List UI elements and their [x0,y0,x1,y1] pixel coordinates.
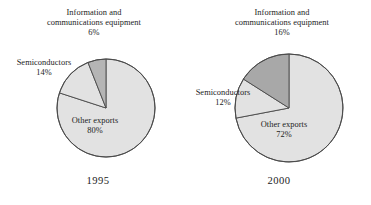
label-other-exports-name-1995: Other exports [72,116,118,125]
label-semiconductors-pct-1995: 14% [2,68,86,78]
label-other-exports-pct-1995: 80% [52,126,138,136]
pie-panel-2000: Information and communications equipment… [185,0,371,205]
label-ict-pct-1995: 6% [24,28,164,38]
label-ict-1995: Information and communications equipment… [24,8,164,39]
label-other-exports-name-2000: Other exports [261,120,307,129]
label-other-exports-pct-2000: 72% [241,130,327,140]
label-other-exports-2000: Other exports 72% [241,120,327,140]
label-ict-name-line2-1995: communications equipment [47,18,141,27]
label-ict-name-line1-1995: Information and [67,8,122,17]
label-semiconductors-name-2000: Semiconductors [196,88,251,97]
label-ict-name-line1-2000: Information and [255,8,310,17]
label-other-exports-1995: Other exports 80% [52,116,138,136]
label-semiconductors-name-1995: Semiconductors [17,58,72,67]
label-ict-name-line2-2000: communications equipment [235,18,329,27]
year-label-1995: 1995 [58,176,138,186]
label-semiconductors-1995: Semiconductors 14% [2,58,86,78]
year-label-2000: 2000 [239,176,319,186]
two-pie-chart-figure: Information and communications equipment… [0,0,371,205]
label-ict-2000: Information and communications equipment… [207,8,357,39]
label-semiconductors-2000: Semiconductors 12% [181,88,265,108]
label-semiconductors-pct-2000: 12% [181,98,265,108]
label-ict-pct-2000: 16% [207,28,357,38]
pie-panel-1995: Information and communications equipment… [0,0,185,205]
